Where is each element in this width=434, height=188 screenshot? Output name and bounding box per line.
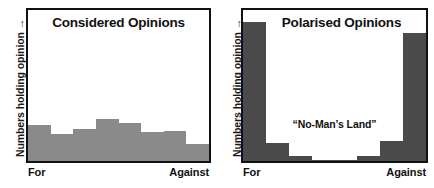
- bar: [266, 143, 289, 161]
- plot-area-polarised: Polarised Opinions “No-Man’s Land”: [241, 8, 428, 163]
- y-axis-label-container: Numbers holding opinion →: [217, 0, 239, 163]
- chart-title-polarised: Polarised Opinions: [243, 15, 426, 30]
- x-axis-label-against: Against: [169, 166, 209, 178]
- plot-area-considered: Considered Opinions: [26, 8, 211, 163]
- bar-series-considered: [28, 10, 209, 161]
- y-axis-label-container: Numbers holding opinion →: [0, 0, 22, 163]
- bar: [312, 160, 335, 162]
- bar: [164, 131, 187, 161]
- opinion-charts-figure: Numbers holding opinion → Considered Opi…: [0, 0, 434, 188]
- bar: [380, 141, 403, 161]
- x-axis-label-against: Against: [386, 166, 426, 178]
- bar: [403, 33, 426, 161]
- bar: [141, 132, 164, 161]
- bar: [96, 119, 119, 161]
- panel-considered-opinions: Numbers holding opinion → Considered Opi…: [0, 0, 217, 188]
- x-axis-label-for: For: [243, 166, 260, 178]
- no-mans-land-annotation: “No-Man’s Land”: [243, 118, 426, 130]
- chart-title-considered: Considered Opinions: [28, 15, 209, 30]
- x-axis-label-for: For: [28, 166, 45, 178]
- bar: [186, 144, 209, 161]
- bar-series-polarised: [243, 10, 426, 161]
- panel-polarised-opinions: Numbers holding opinion → Polarised Opin…: [217, 0, 434, 188]
- bar: [243, 22, 266, 161]
- x-axis-end-labels-polarised: For Against: [243, 166, 426, 178]
- bar: [51, 134, 74, 161]
- bar: [335, 160, 358, 162]
- y-axis-label: Numbers holding opinion →: [15, 19, 26, 157]
- bar: [119, 123, 142, 161]
- bar: [357, 156, 380, 161]
- bar: [289, 156, 312, 161]
- bar: [73, 129, 96, 161]
- x-axis-end-labels-considered: For Against: [28, 166, 209, 178]
- bar: [28, 125, 51, 161]
